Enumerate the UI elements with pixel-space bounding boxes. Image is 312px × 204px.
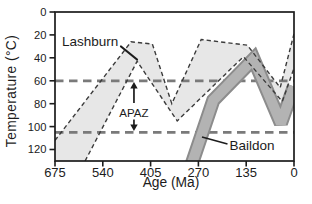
x-axis-title: Age (Ma) xyxy=(143,175,200,190)
y-tick-label: 60 xyxy=(34,75,46,87)
arrow-down-icon xyxy=(130,125,137,132)
y-tick-label: 120 xyxy=(28,143,47,155)
apaz-label: APAZ xyxy=(119,107,148,119)
y-tick-label: 100 xyxy=(28,121,47,133)
y-tick-label: 20 xyxy=(34,29,46,41)
thermal-history-chart: 6755404052701350 020406080100120 Lashbur… xyxy=(0,0,312,204)
y-tick-label: 0 xyxy=(40,6,46,18)
x-tick-label: 675 xyxy=(44,165,66,180)
arrow-up-icon xyxy=(130,82,137,89)
y-axis-ticks: 020406080100120 xyxy=(28,6,55,156)
x-tick-label: 135 xyxy=(235,165,257,180)
x-tick-label: 540 xyxy=(92,165,114,180)
y-tick-label: 40 xyxy=(34,52,46,64)
baildon-label: Baildon xyxy=(230,138,275,153)
figure: 6755404052701350 020406080100120 Lashbur… xyxy=(0,0,312,204)
x-tick-label: 0 xyxy=(290,165,297,180)
y-tick-label: 80 xyxy=(34,98,46,110)
lashburn-label: Lashburn xyxy=(62,34,118,49)
y-axis-title: Temperature (°C) xyxy=(4,35,19,147)
